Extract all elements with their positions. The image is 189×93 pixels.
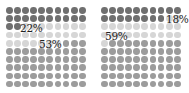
dot-medium xyxy=(141,40,148,47)
label-dark-right: 18% xyxy=(166,14,188,25)
dot-dark xyxy=(125,7,132,14)
dot-medium xyxy=(150,81,157,88)
dot-dark xyxy=(14,15,21,22)
dot-dark xyxy=(30,7,37,14)
dot-medium xyxy=(71,56,78,63)
dot-medium xyxy=(6,81,13,88)
dot-medium xyxy=(101,64,108,71)
dot-medium xyxy=(133,56,140,63)
dot-medium xyxy=(30,73,37,80)
dot-light xyxy=(141,23,148,30)
dot-medium xyxy=(125,48,132,55)
dot-medium xyxy=(30,56,37,63)
dot-dark xyxy=(71,7,78,14)
dot-medium xyxy=(63,40,70,47)
dot-medium xyxy=(6,64,13,71)
dot-light xyxy=(133,32,140,39)
dot-dark xyxy=(101,7,108,14)
dot-dark xyxy=(71,15,78,22)
dot-dark xyxy=(158,7,165,14)
dot-medium xyxy=(166,73,173,80)
dot-medium xyxy=(79,56,86,63)
dot-medium xyxy=(30,81,37,88)
dot-medium xyxy=(38,81,45,88)
dot-medium xyxy=(117,64,124,71)
dot-medium xyxy=(109,56,116,63)
dot-light xyxy=(150,32,157,39)
dot-medium xyxy=(117,56,124,63)
dot-dark xyxy=(38,7,45,14)
dot-dark xyxy=(150,15,157,22)
dot-medium xyxy=(14,73,21,80)
dot-medium xyxy=(117,73,124,80)
dot-light xyxy=(166,32,173,39)
dot-dark xyxy=(6,23,13,30)
dot-dark xyxy=(63,15,70,22)
dot-dark xyxy=(22,7,29,14)
dot-medium xyxy=(55,56,62,63)
dot-medium xyxy=(71,40,78,47)
dot-dark xyxy=(79,15,86,22)
dot-medium xyxy=(109,81,116,88)
dot-medium xyxy=(158,56,165,63)
dot-medium xyxy=(14,48,21,55)
dot-medium xyxy=(158,73,165,80)
dot-medium xyxy=(22,64,29,71)
dot-light xyxy=(174,32,181,39)
dot-dark xyxy=(101,15,108,22)
dot-dark xyxy=(133,15,140,22)
dot-medium xyxy=(158,64,165,71)
label-dark-left: 22% xyxy=(20,23,42,34)
dot-dark xyxy=(117,15,124,22)
dot-light xyxy=(6,32,13,39)
dot-dark xyxy=(125,15,132,22)
dot-medium xyxy=(166,81,173,88)
dot-medium xyxy=(109,64,116,71)
dot-medium xyxy=(141,48,148,55)
dot-medium xyxy=(125,64,132,71)
dot-light xyxy=(158,23,165,30)
dot-medium xyxy=(117,81,124,88)
dot-medium xyxy=(109,73,116,80)
dot-medium xyxy=(150,64,157,71)
dot-medium xyxy=(174,40,181,47)
dot-medium xyxy=(133,73,140,80)
dot-dark xyxy=(55,7,62,14)
dot-medium xyxy=(38,64,45,71)
dot-medium xyxy=(158,48,165,55)
dot-dark xyxy=(55,15,62,22)
dot-light xyxy=(79,23,86,30)
dot-medium xyxy=(125,56,132,63)
dot-medium xyxy=(6,56,13,63)
dot-medium xyxy=(117,48,124,55)
dot-medium xyxy=(174,73,181,80)
dot-medium xyxy=(166,40,173,47)
dot-medium xyxy=(150,73,157,80)
dot-medium xyxy=(174,81,181,88)
dot-medium xyxy=(150,48,157,55)
dot-medium xyxy=(55,64,62,71)
dot-medium xyxy=(46,73,53,80)
dot-medium xyxy=(79,64,86,71)
dot-medium xyxy=(14,56,21,63)
dot-dark xyxy=(117,7,124,14)
dot-medium xyxy=(14,81,21,88)
dot-medium xyxy=(133,40,140,47)
dot-dark xyxy=(46,15,53,22)
dot-medium xyxy=(150,56,157,63)
dot-medium xyxy=(38,56,45,63)
waffle-chart-left: 22% 53% xyxy=(6,7,88,90)
dot-medium xyxy=(141,64,148,71)
dot-medium xyxy=(30,48,37,55)
dot-medium xyxy=(30,64,37,71)
dot-light xyxy=(141,32,148,39)
dot-medium xyxy=(22,73,29,80)
dot-medium xyxy=(22,81,29,88)
dot-medium xyxy=(79,81,86,88)
dot-medium xyxy=(101,48,108,55)
dot-dark xyxy=(79,7,86,14)
dot-medium xyxy=(141,73,148,80)
dot-light xyxy=(158,32,165,39)
dot-dark xyxy=(6,15,13,22)
dot-medium xyxy=(55,81,62,88)
